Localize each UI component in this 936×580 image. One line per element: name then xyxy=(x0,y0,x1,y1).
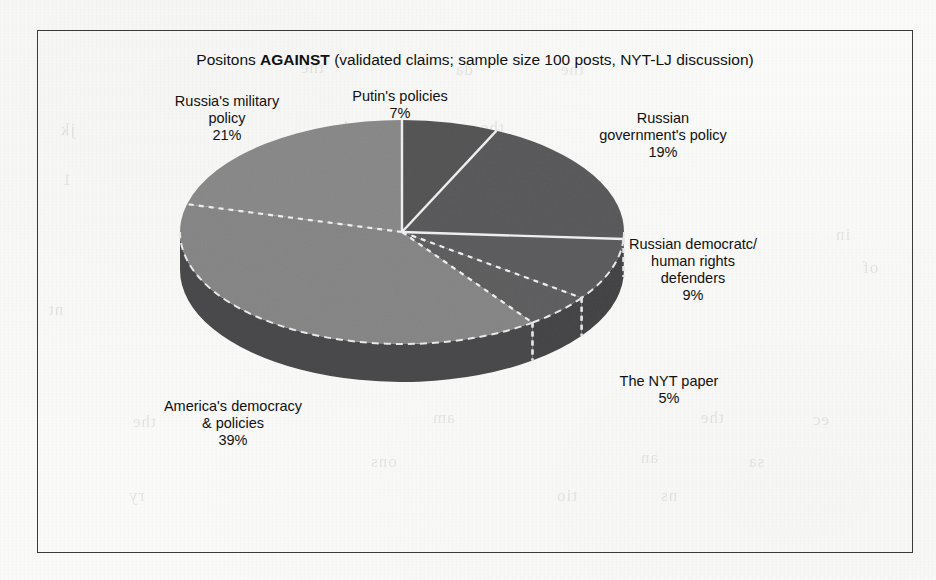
slice-label-line2: human rights xyxy=(651,253,735,269)
slice-value: 19% xyxy=(545,144,781,161)
chart-title-suffix: (validated claims; sample size 100 posts… xyxy=(330,51,754,68)
slice-value: 21% xyxy=(122,127,332,144)
chart-title-emphasis: AGAINST xyxy=(260,51,330,68)
slice-label-line2: & policies xyxy=(202,415,264,431)
slice-value: 5% xyxy=(562,390,776,407)
slice-label-the-nyt-paper: The NYT paper 5% xyxy=(562,373,776,407)
slice-label-line2: government's policy xyxy=(599,127,727,143)
slice-label-line1: Russia's military xyxy=(175,93,279,109)
slice-value: 39% xyxy=(100,432,366,449)
chart-title-prefix: Positons xyxy=(196,51,260,68)
chart-title: Positons AGAINST (validated claims; samp… xyxy=(38,51,912,69)
slice-label-russian-democratic-human-rights-defenders: Russian democratc/ human rights defender… xyxy=(580,236,806,304)
slice-value: 7% xyxy=(300,105,500,122)
slice-value: 9% xyxy=(580,287,806,304)
slice-label-americas-democracy-and-policies: America's democracy & policies 39% xyxy=(100,398,366,449)
slice-label-putins-policies: Putin's policies 7% xyxy=(300,88,500,122)
slice-label-russian-governments-policy: Russian government's policy 19% xyxy=(545,110,781,161)
slice-label-line3: defenders xyxy=(661,270,726,286)
slice-label-line1: Russian democratc/ xyxy=(629,236,757,252)
slice-label-line1: The NYT paper xyxy=(620,373,719,389)
slice-label-line2: policy xyxy=(208,110,245,126)
slice-label-line1: America's democracy xyxy=(164,398,302,414)
slice-label-line1: Russian xyxy=(637,110,689,126)
slice-label-line1: Putin's policies xyxy=(352,88,447,104)
